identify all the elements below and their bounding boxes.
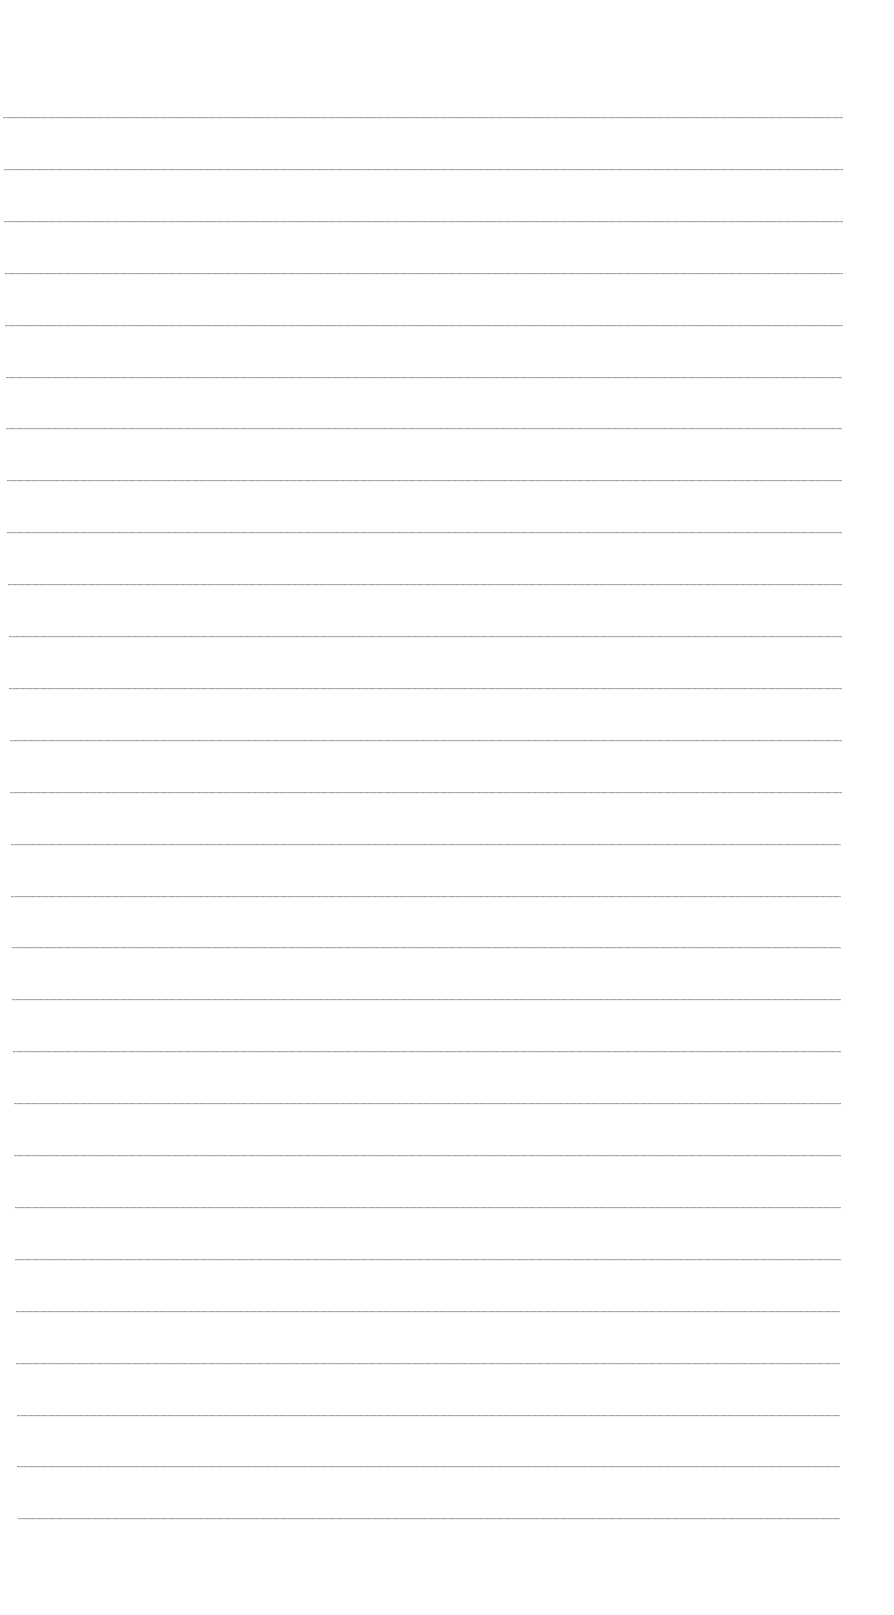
ruled-line [16,1363,840,1364]
ruled-line [5,325,842,326]
ruled-line [10,792,841,793]
ruled-line [17,1466,840,1467]
ruled-line [5,273,843,274]
ruled-line [6,377,843,378]
ruled-line [10,740,842,741]
ruled-line [11,844,842,845]
ruled-line [14,1103,841,1104]
ruled-line [3,117,843,118]
ruled-line [12,999,841,1000]
ruled-line [7,532,842,533]
ruled-line [9,636,842,637]
ruled-line [17,1415,840,1416]
ruled-line [4,221,843,222]
ruled-line [6,428,842,429]
lined-paper [0,0,894,1615]
ruled-line [14,1155,841,1156]
ruled-line [15,1207,841,1208]
ruled-line [7,480,842,481]
ruled-line [11,896,841,897]
ruled-line [8,584,842,585]
ruled-line [16,1311,841,1312]
ruled-line [4,169,843,170]
ruled-line [15,1259,840,1260]
ruled-line [9,688,842,689]
ruled-line [12,947,841,948]
ruled-line [18,1518,840,1519]
ruled-line [13,1051,841,1052]
